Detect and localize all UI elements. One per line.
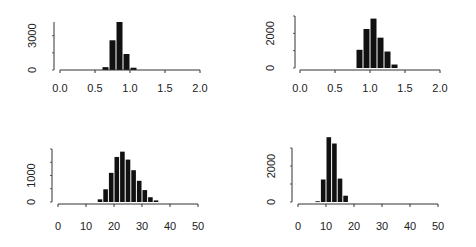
x-tick-label: 2.0: [192, 82, 207, 94]
histogram-bar: [103, 189, 108, 202]
histogram-bar: [109, 173, 114, 202]
x-tick-label: 0.0: [52, 82, 67, 94]
x-tick-label: 0.0: [292, 82, 307, 94]
histogram-bar: [154, 200, 159, 202]
histogram-bar: [115, 157, 120, 202]
x-tick-label: 1.0: [362, 82, 377, 94]
x-tick-label: 20: [108, 220, 120, 232]
x-tick-label: 50: [432, 220, 444, 232]
histogram-bar: [137, 181, 142, 202]
x-tick-label: 50: [192, 220, 204, 232]
x-tick-label: 10: [320, 220, 332, 232]
histogram-bar: [131, 170, 136, 202]
y-tick-label: 0: [25, 199, 37, 205]
histogram-bars: [103, 22, 137, 70]
histogram-bar: [378, 38, 384, 68]
x-tick-label: 0: [55, 220, 61, 232]
y-tick-label: 2000: [264, 21, 276, 45]
x-tick-label: 1.5: [157, 82, 172, 94]
x-tick-label: 1.5: [397, 82, 412, 94]
x-tick-label: 30: [376, 220, 388, 232]
x-tick-label: 30: [136, 220, 148, 232]
histogram-bar: [148, 197, 153, 202]
histogram-bars: [98, 152, 159, 202]
histogram-bar: [117, 22, 123, 70]
histogram-bar: [357, 50, 363, 68]
histogram-bar: [332, 144, 337, 203]
histogram-bar: [371, 19, 377, 68]
histogram-bar: [110, 40, 116, 70]
histogram-bar: [120, 152, 125, 202]
x-tick-label: 0: [295, 220, 301, 232]
y-tick-label: 1000: [25, 163, 37, 187]
x-tick-label: 10: [80, 220, 92, 232]
histogram-bar: [143, 190, 148, 202]
histogram-bars: [357, 19, 398, 68]
histogram-bar: [315, 201, 320, 202]
x-tick-label: 2.0: [432, 82, 447, 94]
y-tick-label: 0: [26, 67, 38, 73]
x-tick-label: 1.0: [122, 82, 137, 94]
histogram-bar: [327, 137, 332, 202]
histogram-bar: [364, 29, 370, 68]
histogram-bar: [124, 54, 130, 70]
histogram-top-left: 0.00.51.01.52.003000: [0, 0, 238, 123]
histogram-bar: [321, 180, 326, 203]
histogram-top-right: 0.00.51.01.52.002000: [238, 0, 476, 123]
histogram-bar: [343, 196, 348, 202]
histogram-bar: [385, 52, 391, 68]
y-tick-label: 2000: [265, 154, 277, 178]
histogram-bars: [315, 137, 348, 202]
histogram-bar: [98, 199, 103, 202]
y-tick-label: 3000: [26, 23, 38, 47]
x-tick-label: 0.5: [327, 82, 342, 94]
histogram-bar: [126, 160, 131, 202]
x-tick-label: 40: [404, 220, 416, 232]
histogram-bar: [392, 65, 398, 68]
x-tick-label: 40: [164, 220, 176, 232]
histogram-bottom-right: 0102030405002000: [238, 123, 476, 246]
histogram-bar: [338, 179, 343, 202]
histogram-bottom-left: 0102030405001000: [0, 123, 238, 246]
x-tick-label: 20: [348, 220, 360, 232]
y-tick-label: 0: [265, 199, 277, 205]
y-tick-label: 0: [264, 65, 276, 71]
x-tick-label: 0.5: [87, 82, 102, 94]
